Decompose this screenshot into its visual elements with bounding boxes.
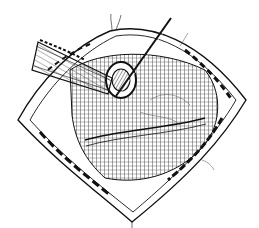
surgical-illustration — [0, 0, 259, 228]
illustration-svg — [0, 0, 259, 228]
